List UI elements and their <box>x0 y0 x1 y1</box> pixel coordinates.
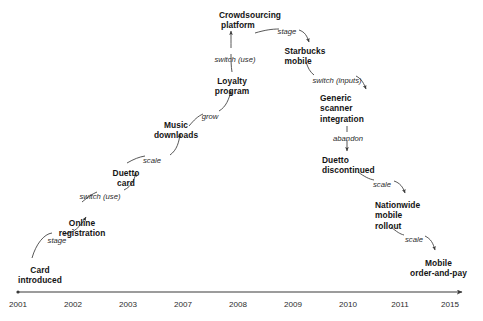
time-axis <box>16 290 462 293</box>
edge-label-switch-use-1: switch (use) <box>79 192 120 201</box>
arrow-scale-3b <box>425 236 435 250</box>
node-line: Generic <box>320 93 364 103</box>
node-line: card <box>113 178 140 188</box>
node-line: Mobile <box>410 258 467 268</box>
axis-tick-2003: 2003 <box>119 300 137 309</box>
node-nationwide-mobile-rollout[interactable]: Nationwide mobile rollout <box>375 200 420 231</box>
edge-label-scale-1: scale <box>143 156 161 165</box>
node-line: rollout <box>375 221 420 231</box>
node-line: discontinued <box>322 165 375 175</box>
axis-tick-2009: 2009 <box>284 300 302 309</box>
axis-tick-2011: 2011 <box>391 300 408 309</box>
node-line: Crowdsourcing <box>219 10 281 20</box>
node-line: downloads <box>154 130 198 140</box>
node-line: Nationwide <box>375 200 420 210</box>
axis-tick-2010: 2010 <box>339 300 357 309</box>
node-line: Duetto <box>113 168 140 178</box>
node-mobile-order-and-pay[interactable]: Mobile order-and-pay <box>410 258 467 279</box>
edge-label-switch-inputs: switch (inputs) <box>312 76 361 85</box>
node-line: scanner <box>320 103 364 113</box>
node-generic-scanner-integration[interactable]: Generic scanner integration <box>320 93 364 124</box>
node-line: program <box>215 86 249 96</box>
node-duetto-card[interactable]: Duetto card <box>113 168 140 189</box>
node-line: Card <box>18 265 62 275</box>
node-line: Music <box>154 120 198 130</box>
node-line: mobile <box>285 56 326 66</box>
timeline-diagram: Card introduced Online registration Duet… <box>0 0 483 321</box>
node-loyalty-program[interactable]: Loyalty program <box>215 76 249 97</box>
edge-label-abandon: abandon <box>333 134 363 143</box>
edge-label-stage-1: stage <box>48 236 67 245</box>
node-line: Duetto <box>322 155 375 165</box>
node-line: order-and-pay <box>410 268 467 278</box>
node-starbucks-mobile[interactable]: Starbucks mobile <box>285 46 326 67</box>
axis-tick-2007: 2007 <box>174 300 192 309</box>
edge-label-scale-2: scale <box>373 180 391 189</box>
axis-tick-2002: 2002 <box>64 300 82 309</box>
node-duetto-discontinued[interactable]: Duetto discontinued <box>322 155 375 176</box>
node-line: Loyalty <box>215 76 249 86</box>
node-crowdsourcing-platform[interactable]: Crowdsourcing platform <box>219 10 281 31</box>
node-card-introduced[interactable]: Card introduced <box>18 265 62 286</box>
node-line: integration <box>320 114 364 124</box>
node-music-downloads[interactable]: Music downloads <box>154 120 198 141</box>
node-line: platform <box>219 20 281 30</box>
arrow-scale-2b <box>394 181 405 193</box>
axis-tick-2001: 2001 <box>9 300 27 309</box>
edge-label-stage-2: stage <box>278 27 297 36</box>
node-line: mobile <box>375 210 420 220</box>
node-line: Starbucks <box>285 46 326 56</box>
axis-tick-2015: 2015 <box>441 300 459 309</box>
edge-label-grow: grow <box>202 112 219 121</box>
node-line: Online <box>59 218 106 228</box>
edge-label-switch-use-2: switch (use) <box>214 55 255 64</box>
arrow-stage-2b <box>299 30 309 42</box>
node-line: introduced <box>18 275 62 285</box>
edge-label-scale-3: scale <box>405 235 423 244</box>
axis-tick-2008: 2008 <box>229 300 247 309</box>
